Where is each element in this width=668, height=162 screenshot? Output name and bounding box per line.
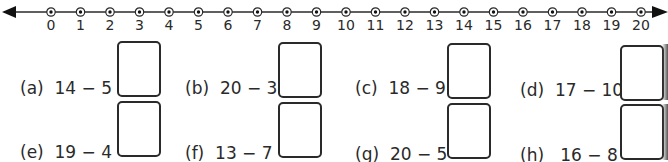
tick-dot xyxy=(285,10,288,13)
tick-label: 6 xyxy=(213,17,243,33)
tick-dot xyxy=(197,10,200,13)
problem-d: (d) 17 − 10 = xyxy=(520,42,665,100)
tick-dot xyxy=(167,10,170,13)
answer-box-a[interactable] xyxy=(117,41,161,97)
tick-label: 14 xyxy=(449,17,479,33)
tick-label: 16 xyxy=(508,17,538,33)
tick-dot xyxy=(433,10,436,13)
tick-dot xyxy=(256,10,259,13)
tick-label: 2 xyxy=(95,17,125,33)
problem-label: (d) xyxy=(520,80,544,100)
problem-h: (h) 16 − 8 = xyxy=(520,103,665,161)
left-arrow-icon xyxy=(2,6,16,18)
problem-label: (g) xyxy=(355,144,379,162)
tick-dot xyxy=(462,10,465,13)
tick-markers xyxy=(47,8,645,16)
answer-box-f[interactable] xyxy=(278,102,322,158)
answer-box-h[interactable] xyxy=(620,104,664,160)
page-edge-shadow xyxy=(662,104,668,160)
problem-label: (h) xyxy=(520,145,544,162)
tick-label: 1 xyxy=(66,17,96,33)
tick-dot xyxy=(374,10,377,13)
answer-box-b[interactable] xyxy=(278,42,322,98)
problem-c: (c) 18 − 9 = xyxy=(355,40,500,98)
problem-label: (b) xyxy=(185,78,209,98)
problem-f: (f) 13 − 7 = xyxy=(185,101,330,159)
tick-dot xyxy=(49,10,52,13)
answer-box-g[interactable] xyxy=(447,103,491,159)
problem-label: (e) xyxy=(20,142,44,162)
problem-label: (c) xyxy=(355,78,378,98)
tick-dot xyxy=(521,10,524,13)
answer-box-d[interactable] xyxy=(620,45,664,101)
tick-dot xyxy=(610,10,613,13)
tick-label: 9 xyxy=(302,17,332,33)
problem-e: (e) 19 − 4 = xyxy=(20,100,165,158)
tick-label: 5 xyxy=(184,17,214,33)
tick-label: 3 xyxy=(125,17,155,33)
tick-label: 8 xyxy=(272,17,302,33)
number-line: 01234567891011121314151617181920 xyxy=(0,0,668,36)
tick-dot xyxy=(580,10,583,13)
problem-label: (a) xyxy=(20,78,44,98)
tick-label: 15 xyxy=(479,17,509,33)
tick-dot xyxy=(551,10,554,13)
tick-dot xyxy=(344,10,347,13)
problem-a: (a) 14 − 5 = xyxy=(20,40,165,98)
tick-dot xyxy=(639,10,642,13)
problem-g: (g) 20 − 5 = xyxy=(355,102,500,160)
answer-box-e[interactable] xyxy=(117,101,161,157)
page-edge-shadow xyxy=(662,44,668,100)
tick-dot xyxy=(108,10,111,13)
tick-label: 4 xyxy=(154,17,184,33)
tick-label: 7 xyxy=(243,17,273,33)
problem-label: (f) xyxy=(185,143,204,162)
tick-dot xyxy=(492,10,495,13)
tick-label: 13 xyxy=(420,17,450,33)
tick-label: 18 xyxy=(567,17,597,33)
problem-b: (b) 20 − 3 = xyxy=(185,40,330,98)
tick-label: 0 xyxy=(36,17,66,33)
tick-dot xyxy=(226,10,229,13)
tick-dot xyxy=(138,10,141,13)
tick-label: 11 xyxy=(361,17,391,33)
tick-label: 10 xyxy=(331,17,361,33)
tick-dot xyxy=(315,10,318,13)
tick-label: 17 xyxy=(538,17,568,33)
tick-dot xyxy=(403,10,406,13)
tick-label: 19 xyxy=(597,17,627,33)
tick-label: 20 xyxy=(626,17,656,33)
answer-box-c[interactable] xyxy=(447,43,491,99)
tick-label: 12 xyxy=(390,17,420,33)
tick-dot xyxy=(79,10,82,13)
